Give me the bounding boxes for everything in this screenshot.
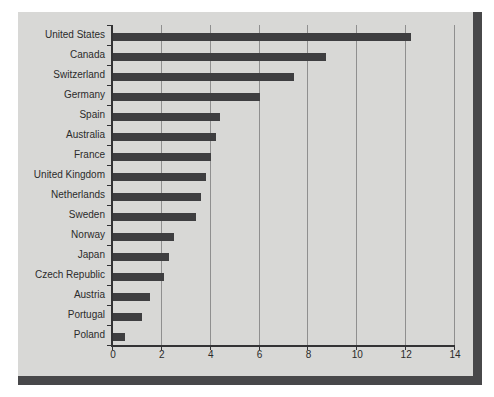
y-axis-tick bbox=[107, 245, 111, 246]
y-axis-tick bbox=[107, 145, 111, 146]
category-labels: United StatesCanadaSwitzerlandGermanySpa… bbox=[18, 25, 105, 345]
gridline bbox=[405, 25, 406, 345]
bar bbox=[113, 33, 411, 41]
category-label: Australia bbox=[18, 125, 105, 145]
bar bbox=[113, 73, 294, 81]
x-tick-label: 0 bbox=[110, 349, 116, 361]
y-axis-tick bbox=[107, 185, 111, 186]
y-axis-tick bbox=[107, 265, 111, 266]
plot-area bbox=[111, 25, 455, 347]
gridline bbox=[307, 25, 308, 345]
gridline bbox=[454, 25, 455, 345]
bar bbox=[113, 153, 211, 161]
x-tick-label: 2 bbox=[159, 349, 165, 361]
category-label: United States bbox=[18, 25, 105, 45]
category-label: Germany bbox=[18, 85, 105, 105]
y-axis-tick bbox=[107, 125, 111, 126]
y-axis-tick bbox=[107, 45, 111, 46]
y-axis-tick bbox=[107, 285, 111, 286]
bar bbox=[113, 333, 125, 341]
bar bbox=[113, 233, 174, 241]
y-axis-tick bbox=[107, 345, 111, 346]
category-label: France bbox=[18, 145, 105, 165]
x-tick-label: 10 bbox=[352, 349, 363, 361]
y-axis-tick bbox=[107, 105, 111, 106]
category-label: Czech Republic bbox=[18, 265, 105, 285]
y-axis-tick bbox=[107, 325, 111, 326]
bar bbox=[113, 93, 260, 101]
page: { "colors": { "page_bg": "#ffffff", "pan… bbox=[0, 0, 494, 397]
x-tick-label: 8 bbox=[306, 349, 312, 361]
y-axis-tick bbox=[107, 65, 111, 66]
x-tick-label: 14 bbox=[449, 349, 460, 361]
y-axis-tick bbox=[107, 85, 111, 86]
category-label: Switzerland bbox=[18, 65, 105, 85]
gridline bbox=[356, 25, 357, 345]
category-label: Norway bbox=[18, 225, 105, 245]
category-label: Poland bbox=[18, 325, 105, 345]
category-label: Netherlands bbox=[18, 185, 105, 205]
bar bbox=[113, 53, 326, 61]
bar bbox=[113, 273, 164, 281]
bar bbox=[113, 253, 169, 261]
y-axis-tick bbox=[107, 205, 111, 206]
x-axis-labels: 02468101214 bbox=[113, 349, 455, 361]
category-label: Austria bbox=[18, 285, 105, 305]
y-axis-tick bbox=[107, 305, 111, 306]
x-tick-label: 4 bbox=[208, 349, 214, 361]
chart-panel: United StatesCanadaSwitzerlandGermanySpa… bbox=[18, 12, 482, 385]
y-axis-tick bbox=[107, 25, 111, 26]
bar bbox=[113, 133, 216, 141]
category-label: United Kingdom bbox=[18, 165, 105, 185]
category-label: Canada bbox=[18, 45, 105, 65]
bar bbox=[113, 313, 142, 321]
bar bbox=[113, 173, 206, 181]
x-tick-label: 12 bbox=[401, 349, 412, 361]
bar bbox=[113, 113, 220, 121]
category-label: Portugal bbox=[18, 305, 105, 325]
category-label: Japan bbox=[18, 245, 105, 265]
y-axis-tick bbox=[107, 225, 111, 226]
category-label: Sweden bbox=[18, 205, 105, 225]
bar bbox=[113, 213, 196, 221]
category-label: Spain bbox=[18, 105, 105, 125]
bar bbox=[113, 293, 150, 301]
bar bbox=[113, 193, 201, 201]
x-tick-label: 6 bbox=[257, 349, 263, 361]
y-axis-tick bbox=[107, 165, 111, 166]
